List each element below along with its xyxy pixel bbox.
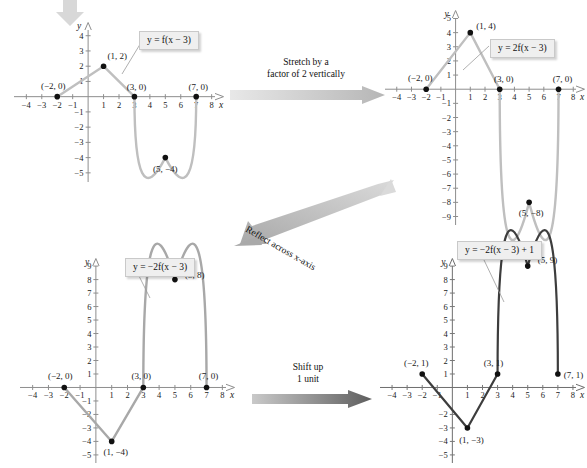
data-point bbox=[193, 94, 199, 100]
x-axis-label: x bbox=[229, 390, 235, 400]
y-tick-label: 5 bbox=[447, 13, 451, 23]
x-tick-label: 8 bbox=[571, 92, 575, 102]
x-tick-label: 5 bbox=[163, 100, 167, 110]
y-tick-label: −3 bbox=[439, 423, 448, 433]
y-tick-label: 4 bbox=[87, 329, 92, 339]
y-tick-label: −1 bbox=[442, 98, 451, 108]
data-point bbox=[556, 86, 562, 92]
panel-1-equation: y = f(x − 3) bbox=[147, 35, 191, 45]
y-tick-label: 1 bbox=[87, 369, 91, 379]
y-tick-label: −5 bbox=[75, 168, 84, 178]
x-tick-label: 3 bbox=[495, 390, 499, 400]
x-tick-label: 6 bbox=[179, 100, 183, 110]
point-label: (3, 1) bbox=[484, 358, 504, 368]
y-tick-label: −4 bbox=[75, 153, 85, 163]
x-tick-label: −3 bbox=[407, 92, 416, 102]
y-tick-label: 8 bbox=[444, 275, 448, 285]
data-point bbox=[465, 425, 471, 431]
data-point bbox=[555, 371, 561, 377]
y-tick-label: 8 bbox=[87, 275, 91, 285]
point-label: (1, 4) bbox=[476, 21, 496, 31]
x-axis-label: x bbox=[218, 100, 224, 110]
x-tick-label: 5 bbox=[173, 390, 177, 400]
y-tick-label: 2 bbox=[87, 356, 91, 366]
data-point bbox=[61, 385, 67, 391]
panel-3-equation-callout: y = −2f(x − 3) bbox=[125, 258, 195, 277]
x-tick-label: −3 bbox=[44, 390, 53, 400]
data-point bbox=[497, 86, 503, 92]
data-point bbox=[141, 385, 147, 391]
stretch-label-line2: factor of 2 vertically bbox=[236, 69, 376, 81]
x-tick-label: 8 bbox=[220, 390, 224, 400]
data-point bbox=[172, 277, 178, 283]
y-tick-label: 3 bbox=[87, 342, 91, 352]
y-tick-label: 1 bbox=[444, 369, 448, 379]
data-point bbox=[163, 155, 169, 161]
point-label: (5, −4) bbox=[153, 164, 178, 174]
panel-3-graph: xy−4−3−2−112345678987654321−1−2−3−4−5(−2… bbox=[20, 258, 235, 463]
point-label: (3, 0) bbox=[132, 371, 152, 381]
y-tick-label: 7 bbox=[87, 288, 91, 298]
data-point bbox=[467, 30, 473, 36]
x-axis-label: x bbox=[579, 92, 585, 102]
y-tick-label: 2 bbox=[444, 356, 448, 366]
point-label: (5, −8) bbox=[519, 208, 544, 218]
data-point bbox=[109, 439, 115, 445]
y-tick-label: −3 bbox=[75, 137, 84, 147]
data-point bbox=[419, 371, 425, 377]
y-tick-label: −5 bbox=[82, 450, 91, 460]
point-label: (1, −4) bbox=[103, 447, 128, 457]
y-tick-label: 9 bbox=[87, 261, 91, 271]
point-label: (7, 0) bbox=[199, 371, 219, 381]
panel-2-graph: xy−4−3−2−11234567854321−1−2−3−4−5−6−7−8−… bbox=[385, 10, 585, 225]
x-tick-label: 1 bbox=[465, 390, 469, 400]
x-axis-label: x bbox=[579, 390, 585, 400]
y-tick-label: 6 bbox=[444, 302, 448, 312]
stretch-label-line1: Stretch by a bbox=[236, 57, 376, 69]
data-point bbox=[423, 86, 429, 92]
x-tick-label: 7 bbox=[556, 390, 560, 400]
shift-label-line2: 1 unit bbox=[263, 374, 353, 386]
data-point bbox=[495, 371, 501, 377]
y-tick-label: −2 bbox=[75, 122, 84, 132]
x-tick-label: 1 bbox=[468, 92, 472, 102]
y-tick-label: −4 bbox=[82, 436, 92, 446]
data-point bbox=[101, 63, 107, 69]
y-tick-label: −5 bbox=[439, 450, 448, 460]
y-tick-label: −1 bbox=[82, 396, 91, 406]
x-tick-label: 2 bbox=[125, 390, 129, 400]
y-tick-label: −1 bbox=[75, 107, 84, 117]
y-tick-label: −4 bbox=[439, 436, 449, 446]
y-tick-label: −9 bbox=[442, 212, 451, 222]
x-tick-label: 6 bbox=[542, 92, 546, 102]
panel-3-equation: y = −2f(x − 3) bbox=[133, 262, 187, 272]
x-tick-label: −2 bbox=[418, 390, 427, 400]
x-tick-label: −4 bbox=[22, 100, 32, 110]
y-tick-label: 5 bbox=[444, 315, 448, 325]
x-tick-label: 6 bbox=[541, 390, 545, 400]
data-point bbox=[132, 94, 138, 100]
y-tick-label: −6 bbox=[442, 169, 451, 179]
data-point bbox=[525, 263, 531, 269]
x-tick-label: −3 bbox=[37, 100, 46, 110]
panel-4-equation: y = −2f(x − 3) + 1 bbox=[465, 245, 534, 255]
x-tick-label: 8 bbox=[210, 100, 214, 110]
shift-label-line1: Shift up bbox=[263, 362, 353, 374]
x-tick-label: 4 bbox=[512, 92, 517, 102]
data-point bbox=[54, 94, 60, 100]
point-label: (−2, 0) bbox=[41, 81, 66, 91]
point-label: (1, −3) bbox=[459, 435, 484, 445]
y-tick-label: 4 bbox=[447, 28, 452, 38]
point-label: (7, 0) bbox=[553, 74, 573, 84]
y-tick-label: 9 bbox=[444, 261, 448, 271]
y-tick-label: 5 bbox=[87, 315, 91, 325]
x-tick-label: −4 bbox=[388, 390, 398, 400]
y-tick-label: −8 bbox=[442, 197, 451, 207]
y-tick-label: 6 bbox=[87, 302, 91, 312]
y-tick-label: −2 bbox=[439, 409, 448, 419]
point-label: (7, 1) bbox=[564, 370, 584, 380]
x-tick-label: 5 bbox=[526, 390, 530, 400]
x-tick-label: −2 bbox=[53, 100, 62, 110]
point-label: (7, 0) bbox=[188, 82, 208, 92]
panel-4-equation-callout: y = −2f(x − 3) + 1 bbox=[457, 241, 542, 260]
